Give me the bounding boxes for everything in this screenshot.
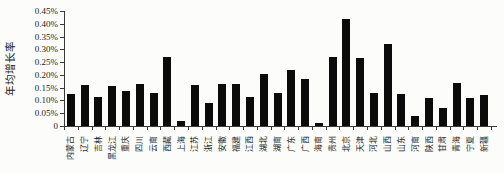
x-category-label-text: 广东 <box>287 136 296 152</box>
bar-新疆 <box>480 95 488 126</box>
bar-江西 <box>246 97 254 126</box>
bar-贵州 <box>329 57 337 126</box>
x-category-label-text: 甘肃 <box>438 136 447 152</box>
y-tick-mark <box>60 11 64 12</box>
bar-重庆 <box>122 91 130 126</box>
x-category-label-text: 山东 <box>397 136 406 152</box>
y-tick-mark <box>60 75 64 76</box>
x-tick-mark <box>271 127 272 130</box>
x-tick-mark <box>92 127 93 130</box>
x-tick-mark <box>174 127 175 130</box>
x-category-label-text: 海南 <box>314 136 323 152</box>
x-category-label-text: 浙江 <box>204 136 213 152</box>
x-category-label-text: 辽宁 <box>80 136 89 152</box>
y-tick-mark <box>60 37 64 38</box>
x-tick-mark <box>133 127 134 130</box>
x-tick-mark <box>229 127 230 130</box>
x-category-label-text: 四川 <box>135 136 144 152</box>
bar-辽宁 <box>81 85 89 126</box>
x-category-label-text: 河北 <box>369 136 378 152</box>
y-axis-line <box>64 11 65 126</box>
x-category-label-text: 贵州 <box>328 136 337 152</box>
x-tick-mark <box>312 127 313 130</box>
y-tick-mark <box>60 62 64 63</box>
bar-上海 <box>177 121 185 126</box>
bar-安徽 <box>218 84 226 126</box>
x-tick-mark <box>477 127 478 130</box>
bar-青海 <box>453 83 461 126</box>
x-tick-mark <box>353 127 354 130</box>
y-axis-title: 年均增长率 <box>2 11 16 126</box>
bar-黑龙江 <box>108 86 116 126</box>
x-tick-mark <box>105 127 106 130</box>
x-category-label-text: 江西 <box>245 136 254 152</box>
bar-宁夏 <box>466 98 474 126</box>
bar-福建 <box>232 84 240 126</box>
y-tick-label: 0.25% <box>18 57 58 67</box>
x-category-label-text: 湖北 <box>259 136 268 152</box>
x-tick-mark <box>450 127 451 130</box>
bar-浙江 <box>205 103 213 126</box>
bar-chart-figure: 年均增长率 0.45%0.40%0.35%0.30%0.25%0.20%0.15… <box>0 0 504 174</box>
x-tick-mark <box>160 127 161 130</box>
bar-海南 <box>315 123 323 126</box>
x-tick-mark <box>395 127 396 130</box>
x-tick-mark <box>463 127 464 130</box>
x-tick-mark <box>119 127 120 130</box>
x-tick-mark <box>491 127 492 130</box>
x-axis-line <box>64 126 497 127</box>
y-tick-label: 0.05% <box>18 108 58 118</box>
bar-湖南 <box>274 93 282 126</box>
y-tick-label: 0 <box>18 121 58 131</box>
x-category-label-text: 安徽 <box>218 136 227 152</box>
bar-陕西 <box>425 98 433 126</box>
bar-广西 <box>301 79 309 126</box>
y-axis-title-text: 年均增长率 <box>2 41 17 96</box>
x-category-label-text: 云南 <box>149 136 158 152</box>
bar-山东 <box>397 94 405 126</box>
y-tick-label: 0.15% <box>18 83 58 93</box>
x-tick-mark <box>147 127 148 130</box>
x-tick-mark <box>78 127 79 130</box>
x-tick-mark <box>257 127 258 130</box>
x-category-label-text: 江苏 <box>190 136 199 152</box>
x-tick-mark <box>243 127 244 130</box>
bar-吉林 <box>94 97 102 126</box>
x-tick-mark <box>367 127 368 130</box>
bar-西藏 <box>163 57 171 126</box>
y-tick-mark <box>60 100 64 101</box>
bar-河北 <box>370 93 378 126</box>
x-category-label-text: 天津 <box>356 136 365 152</box>
x-tick-mark <box>339 127 340 130</box>
x-tick-mark <box>381 127 382 130</box>
x-category-label-text: 吉林 <box>94 136 103 152</box>
x-tick-mark <box>188 127 189 130</box>
bar-四川 <box>136 84 144 126</box>
bar-江苏 <box>191 85 199 126</box>
y-tick-mark <box>60 88 64 89</box>
bar-山西 <box>384 44 392 126</box>
x-category-label-text: 黑龙江 <box>108 136 117 160</box>
y-tick-label: 0.30% <box>18 44 58 54</box>
y-tick-label: 0.10% <box>18 95 58 105</box>
x-tick-mark <box>216 127 217 130</box>
y-tick-mark <box>60 113 64 114</box>
x-category-label-text: 福建 <box>232 136 241 152</box>
y-tick-label: 0.20% <box>18 70 58 80</box>
y-tick-mark <box>60 49 64 50</box>
y-tick-label: 0.35% <box>18 32 58 42</box>
x-category-label-text: 西藏 <box>163 136 172 152</box>
x-tick-mark <box>422 127 423 130</box>
x-tick-mark <box>298 127 299 130</box>
bar-河南 <box>411 116 419 126</box>
x-tick-mark <box>436 127 437 130</box>
x-category-label-text: 上海 <box>177 136 186 152</box>
x-category-label-text: 湖南 <box>273 136 282 152</box>
x-category-label-text: 河南 <box>411 136 420 152</box>
x-tick-mark <box>326 127 327 130</box>
x-category-label-text: 陕西 <box>425 136 434 152</box>
x-category-label-text: 广西 <box>301 136 310 152</box>
bar-内蒙古 <box>67 94 75 126</box>
bar-广东 <box>287 70 295 126</box>
x-category-label-text: 山西 <box>383 136 392 152</box>
